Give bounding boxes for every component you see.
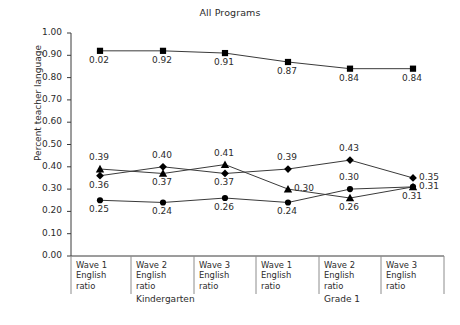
data-point-label: 0.31 — [402, 191, 422, 201]
y-axis-tick-label: 0.00 — [28, 250, 62, 260]
chart-title: All Programs — [0, 7, 460, 18]
data-point-label: 0.26 — [214, 202, 234, 212]
x-axis-category-label-line: ratio — [199, 281, 255, 291]
data-point-label: 0.40 — [152, 150, 172, 160]
data-point-label: 0.92 — [152, 55, 172, 65]
data-point-label: 0.30 — [339, 172, 359, 182]
data-point-label: 0.24 — [152, 206, 172, 216]
y-axis-tick-label: 0.70 — [28, 94, 62, 104]
data-point-label: 0.39 — [277, 152, 297, 162]
data-point-label: 0.02 — [89, 55, 109, 65]
y-axis-tick-label: 1.00 — [28, 27, 62, 37]
x-axis-category-label-line: ratio — [386, 281, 443, 291]
x-axis-category-label-line: English — [199, 270, 255, 280]
y-axis-tick-label: 0.50 — [28, 139, 62, 149]
x-axis-category-label-line: English — [136, 270, 193, 280]
x-axis-category-label-line: ratio — [261, 281, 318, 291]
data-point-label: 0.25 — [89, 204, 109, 214]
data-point-label: 0.37 — [214, 177, 234, 187]
data-point-label: 0.31 — [419, 181, 439, 191]
data-series-group — [96, 48, 417, 206]
x-axis-category-label: Wave 2Englishratio — [136, 260, 193, 291]
data-point-label: 0.30 — [294, 183, 314, 193]
x-axis-group-label: Kindergarten — [136, 294, 195, 304]
x-axis-category-label-line: Wave 2 — [136, 260, 193, 270]
x-axis-category-label: Wave 2Englishratio — [324, 260, 380, 291]
x-axis-category-label-line: English — [261, 270, 318, 280]
data-point-label: 0.41 — [214, 148, 234, 158]
data-point-label: 0.87 — [277, 66, 297, 76]
data-point-label: 0.35 — [419, 172, 439, 182]
y-axis-tick-label: 0.10 — [28, 228, 62, 238]
data-point-label: 0.26 — [339, 202, 359, 212]
x-axis-category-label-line: English — [324, 270, 380, 280]
x-axis-category-label-line: ratio — [76, 281, 130, 291]
axis-lines — [67, 33, 444, 256]
chart-figure: All Programs Percent teacher language 1.… — [0, 0, 460, 325]
y-axis-tick-label: 0.40 — [28, 161, 62, 171]
x-axis-category-label-line: English — [386, 270, 443, 280]
data-point-label: 0.91 — [214, 57, 234, 67]
y-axis-tick-label: 0.90 — [28, 49, 62, 59]
data-point-label: 0.37 — [152, 177, 172, 187]
y-axis-tick-label: 0.20 — [28, 205, 62, 215]
x-axis-category-label-line: Wave 2 — [324, 260, 380, 270]
x-axis-group-label: Grade 1 — [324, 294, 360, 304]
x-axis-category-label-line: Wave 3 — [199, 260, 255, 270]
y-axis-tick-label: 0.30 — [28, 183, 62, 193]
x-axis-category-label-line: English — [76, 270, 130, 280]
y-axis-tick-label: 0.60 — [28, 116, 62, 126]
x-axis-category-label-line: ratio — [324, 281, 380, 291]
x-axis-category-label: Wave 1Englishratio — [76, 260, 130, 291]
x-axis-category-label-line: Wave 3 — [386, 260, 443, 270]
x-axis-category-label: Wave 3Englishratio — [386, 260, 443, 291]
x-axis-category-label-line: Wave 1 — [261, 260, 318, 270]
x-axis-category-label-line: Wave 1 — [76, 260, 130, 270]
data-point-label: 0.43 — [339, 143, 359, 153]
x-axis-category-label-line: ratio — [136, 281, 193, 291]
y-axis-tick-label: 0.80 — [28, 72, 62, 82]
data-point-label: 0.39 — [89, 152, 109, 162]
x-axis-category-label: Wave 3Englishratio — [199, 260, 255, 291]
data-point-label: 0.84 — [402, 73, 422, 83]
data-point-label: 0.84 — [339, 73, 359, 83]
data-point-label: 0.24 — [277, 206, 297, 216]
x-axis-category-label: Wave 1Englishratio — [261, 260, 318, 291]
data-point-label: 0.36 — [89, 180, 109, 190]
